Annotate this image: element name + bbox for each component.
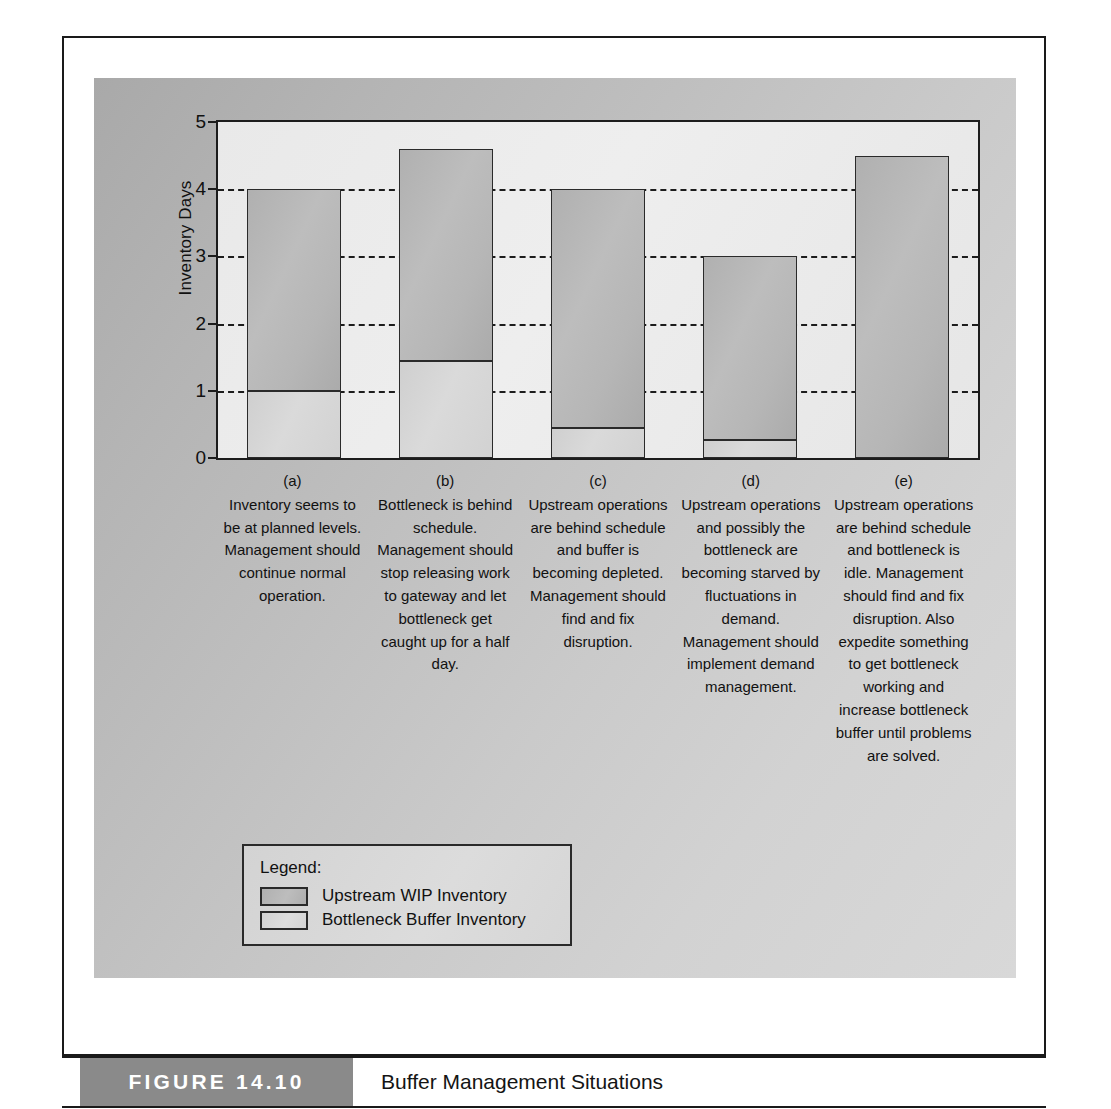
y-tick-mark-1 <box>208 390 218 392</box>
bar-segment-bottleneck-buffer <box>703 440 797 458</box>
column-text-a: Inventory seems to be at planned levels.… <box>222 494 363 608</box>
legend-item-bottleneck-buffer: Bottleneck Buffer Inventory <box>260 910 556 930</box>
plot-area: 012345 <box>216 120 980 460</box>
bar-group-b <box>399 149 493 458</box>
y-tick-label-5: 5 <box>172 111 206 133</box>
figure-title: Buffer Management Situations <box>353 1058 1046 1106</box>
y-tick-mark-0 <box>208 457 218 459</box>
figure-container: Inventory Days 012345 (a) Inventory seem… <box>62 36 1046 1056</box>
column-caption-b: (b) Bottleneck is behind schedule. Manag… <box>369 470 522 767</box>
y-tick-label-3: 3 <box>172 245 206 267</box>
y-axis-title: Inventory Days <box>176 138 196 338</box>
column-letter-c: (c) <box>528 470 669 493</box>
y-tick-mark-3 <box>208 255 218 257</box>
y-tick-mark-4 <box>208 188 218 190</box>
bar-group-d <box>703 256 797 458</box>
legend: Legend: Upstream WIP Inventory Bottlenec… <box>242 844 572 946</box>
figure-number-block: FIGURE 14.10 <box>80 1058 353 1106</box>
y-tick-label-2: 2 <box>172 313 206 335</box>
column-letter-b: (b) <box>375 470 516 493</box>
legend-title: Legend: <box>260 858 556 878</box>
bar-segment-upstream-wip <box>703 256 797 439</box>
bar-group-e <box>855 156 949 458</box>
column-text-d: Upstream operations and possibly the bot… <box>680 494 821 699</box>
y-tick-label-1: 1 <box>172 380 206 402</box>
column-letter-d: (d) <box>680 470 821 493</box>
bar-segment-bottleneck-buffer <box>247 391 341 458</box>
column-caption-d: (d) Upstream operations and possibly the… <box>674 470 827 767</box>
column-letter-e: (e) <box>833 470 974 493</box>
chart-panel: Inventory Days 012345 (a) Inventory seem… <box>94 78 1016 978</box>
legend-label-upstream-wip: Upstream WIP Inventory <box>322 886 507 906</box>
figure-caption-bar: FIGURE 14.10 Buffer Management Situation… <box>62 1056 1046 1108</box>
caption-spacer <box>62 1058 80 1106</box>
column-text-e: Upstream operations are behind schedule … <box>833 494 974 768</box>
bar-segment-upstream-wip <box>247 189 341 391</box>
column-text-c: Upstream operations are behind schedule … <box>528 494 669 654</box>
y-tick-label-0: 0 <box>172 447 206 469</box>
bar-segment-upstream-wip <box>399 149 493 361</box>
legend-swatch-bottleneck-buffer <box>260 911 308 930</box>
y-tick-mark-2 <box>208 323 218 325</box>
column-captions: (a) Inventory seems to be at planned lev… <box>216 470 980 767</box>
legend-swatch-upstream-wip <box>260 887 308 906</box>
y-tick-mark-5 <box>208 121 218 123</box>
column-caption-c: (c) Upstream operations are behind sched… <box>522 470 675 767</box>
column-caption-a: (a) Inventory seems to be at planned lev… <box>216 470 369 767</box>
y-tick-label-4: 4 <box>172 178 206 200</box>
column-letter-a: (a) <box>222 470 363 493</box>
bar-group-a <box>247 189 341 458</box>
bar-segment-upstream-wip <box>855 156 949 458</box>
bar-segment-bottleneck-buffer <box>399 361 493 458</box>
bar-segment-upstream-wip <box>551 189 645 428</box>
legend-label-bottleneck-buffer: Bottleneck Buffer Inventory <box>322 910 526 930</box>
column-text-b: Bottleneck is behind schedule. Managemen… <box>375 494 516 676</box>
column-caption-e: (e) Upstream operations are behind sched… <box>827 470 980 767</box>
bar-segment-bottleneck-buffer <box>551 428 645 458</box>
bar-group-c <box>551 189 645 458</box>
plot-inner: 012345 <box>218 122 978 458</box>
legend-item-upstream-wip: Upstream WIP Inventory <box>260 886 556 906</box>
